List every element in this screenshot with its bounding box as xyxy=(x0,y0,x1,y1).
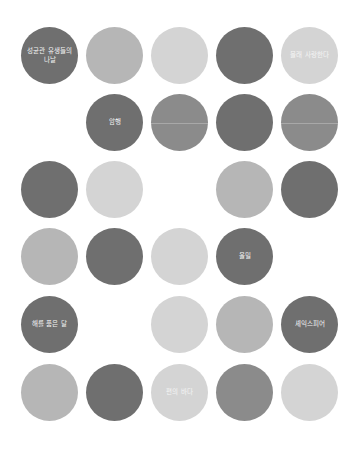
circle-label: 셰익스피어 xyxy=(295,320,325,329)
circle[interactable] xyxy=(216,296,273,353)
circle[interactable] xyxy=(281,364,338,421)
circle[interactable] xyxy=(21,161,78,218)
title-circle[interactable]: 성균관 유생들의 나날 xyxy=(21,27,78,84)
circle[interactable] xyxy=(21,228,78,285)
circle[interactable] xyxy=(21,364,78,421)
circle[interactable] xyxy=(86,161,143,218)
seam-line xyxy=(281,123,338,124)
circle[interactable] xyxy=(151,27,208,84)
title-circle[interactable]: 암행 xyxy=(86,94,143,151)
title-circle[interactable]: 울밀 xyxy=(216,228,273,285)
circle[interactable] xyxy=(216,161,273,218)
circle-label: 성균관 유생들의 나날 xyxy=(25,47,74,65)
circle-label: 몰래 사랑한다 xyxy=(290,51,328,60)
circle[interactable] xyxy=(151,296,208,353)
circle[interactable] xyxy=(281,161,338,218)
circle[interactable] xyxy=(151,94,208,151)
circle[interactable] xyxy=(86,27,143,84)
circle-label: 해를 품은 달 xyxy=(32,320,66,329)
circle[interactable] xyxy=(216,94,273,151)
seam-line xyxy=(151,123,208,124)
title-circle[interactable]: 해를 품은 달 xyxy=(21,296,78,353)
circle-label: 편의 바다 xyxy=(166,388,192,397)
circle-label: 울밀 xyxy=(239,252,251,261)
title-circle[interactable]: 몰래 사랑한다 xyxy=(281,27,338,84)
circle[interactable] xyxy=(281,94,338,151)
circle[interactable] xyxy=(216,27,273,84)
circle[interactable] xyxy=(86,364,143,421)
circle-grid: 성균관 유생들의 나날몰래 사랑한다암행울밀해를 품은 달셰익스피어편의 바다 xyxy=(0,0,353,449)
circle[interactable] xyxy=(151,228,208,285)
title-circle[interactable]: 셰익스피어 xyxy=(281,296,338,353)
circle[interactable] xyxy=(216,364,273,421)
circle-label: 암행 xyxy=(109,118,121,127)
title-circle[interactable]: 편의 바다 xyxy=(151,364,208,421)
circle[interactable] xyxy=(86,228,143,285)
